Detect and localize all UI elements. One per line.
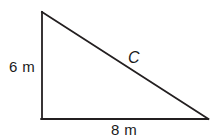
vertical-leg-label: 6 m: [9, 59, 35, 74]
horizontal-leg-label: 8 m: [111, 122, 137, 137]
hypotenuse-label: C: [128, 50, 140, 66]
hypotenuse-line: [42, 12, 209, 119]
right-triangle-figure: 6 m 8 m C: [0, 0, 220, 140]
